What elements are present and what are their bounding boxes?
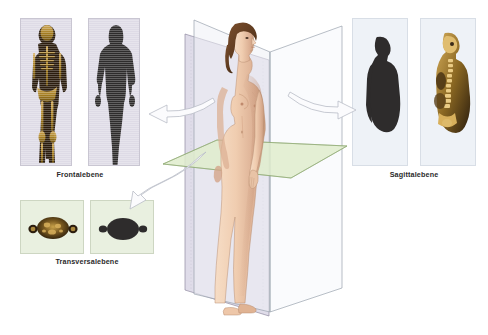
panel-frontal-scan bbox=[20, 18, 72, 166]
arrow-to-frontal bbox=[133, 86, 217, 122]
transversal-scan-image bbox=[21, 201, 84, 254]
central-body-figure bbox=[195, 20, 300, 315]
frontal-scan-image bbox=[21, 19, 72, 166]
caption-transversalebene: Transversalebene bbox=[16, 257, 158, 266]
panel-transversal-scan bbox=[20, 200, 84, 254]
arrow-to-sagittal bbox=[288, 82, 364, 118]
diagram-canvas: Frontalebene bbox=[0, 0, 488, 335]
caption-sagittalebene: Sagittalebene bbox=[352, 170, 476, 179]
sagittal-scan-image bbox=[421, 19, 476, 166]
panel-sagittal-scan bbox=[420, 18, 476, 166]
arrow-to-transversal bbox=[112, 152, 204, 214]
